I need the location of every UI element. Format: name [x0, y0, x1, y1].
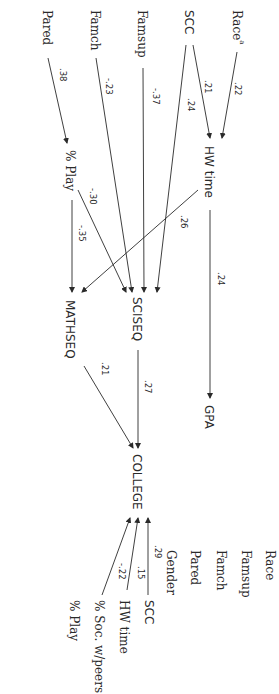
node-college: COLLEGE — [131, 454, 143, 510]
coef-scc-college: .29 — [153, 545, 162, 559]
coef-play-sciseq: -.30 — [88, 188, 97, 205]
coef-scc-sciseq: .24 — [186, 98, 195, 112]
list-hw-time: HW time — [118, 600, 130, 654]
race-footnote: a — [238, 40, 246, 44]
list-pct-play: % Play — [68, 600, 80, 641]
coef-famsup-sciseq: -.37 — [151, 88, 160, 105]
coef-hwtime-mathseq: .26 — [179, 215, 188, 229]
node-sciseq: SCISEQ — [131, 297, 143, 341]
list-scc: SCC — [143, 600, 155, 624]
coef-hwtime-college: .15 — [136, 566, 145, 580]
node-gpa: GPA — [203, 405, 215, 429]
list-famch: Famch — [215, 550, 227, 591]
coef-soc-college: -.22 — [117, 563, 126, 580]
list-gender: Gender — [165, 550, 177, 595]
list-pared: Pared — [189, 550, 201, 585]
path-famsup-sciseq — [143, 68, 144, 292]
path-arrows — [0, 0, 279, 694]
path-famch-sciseq — [96, 58, 132, 292]
path-scc-sciseq — [157, 45, 186, 292]
node-famch: Famch — [89, 10, 101, 51]
node-famsup: Famsup — [136, 10, 148, 58]
path-soc-college — [102, 518, 130, 595]
coef-mathseq-college: .21 — [100, 362, 109, 376]
coef-play-mathseq: -.35 — [77, 225, 86, 242]
list-pct-soc: % Soc. w/peers — [93, 600, 105, 693]
coef-famch-sciseq: -.23 — [104, 78, 113, 95]
node-scc: SCC — [183, 10, 195, 34]
path-hwtime-mathseq — [82, 190, 198, 292]
coef-race-hwtime: .22 — [233, 82, 242, 96]
list-race: Race — [264, 550, 276, 580]
node-hw-time: HW time — [203, 146, 215, 198]
path-mathseq-college — [84, 366, 133, 448]
node-mathseq: MATHSEQ — [64, 300, 76, 359]
list-famsup: Famsup — [240, 550, 252, 598]
node-pared: Pared — [41, 10, 53, 45]
node-pct-play: % Play — [64, 150, 76, 191]
coef-scc-hwtime: .21 — [203, 80, 212, 94]
path-diagram: Racea SCC Famsup Famch Pared HW time % P… — [0, 0, 279, 694]
node-race: Racea — [231, 10, 245, 44]
coef-hwtime-gpa: .24 — [216, 272, 225, 286]
coef-sciseq-college: .27 — [143, 380, 152, 394]
coef-pared-play: .38 — [58, 68, 67, 82]
